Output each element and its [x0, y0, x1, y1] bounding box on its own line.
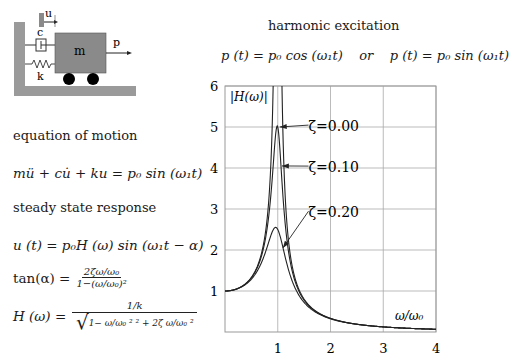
- x-tick-label: 2: [327, 341, 335, 356]
- response-curve: [225, 4, 277, 291]
- zeta-label: ζ=0.10: [309, 159, 360, 175]
- y-tick-label: 5: [210, 120, 218, 135]
- y-tick-label: 3: [210, 202, 218, 217]
- zeta-label: ζ=0.00: [309, 118, 360, 134]
- y-tick-label: 6: [210, 79, 218, 94]
- x-tick-label: 4: [432, 341, 440, 356]
- y-tick-label: 4: [210, 161, 218, 176]
- y-tick-label: 1: [210, 284, 218, 299]
- x-tick-label: 3: [379, 341, 387, 356]
- zeta-annotations: ζ=0.00ζ=0.10ζ=0.20: [280, 118, 359, 248]
- x-axis-label: ω/ω₀: [395, 309, 424, 323]
- x-tick-label: 1: [274, 341, 282, 356]
- y-axis-label: |H(ω)|: [230, 90, 268, 104]
- zeta-label: ζ=0.20: [309, 204, 360, 220]
- y-tick-label: 2: [210, 243, 218, 258]
